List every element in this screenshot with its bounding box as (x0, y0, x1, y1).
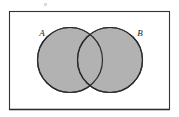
venn-diagram-canvas: A B (0, 0, 179, 117)
venn-diagram-figure: A B (0, 0, 179, 117)
set-b-label: B (137, 28, 143, 38)
scan-speck-icon (44, 3, 47, 6)
set-a-label: A (38, 28, 45, 38)
